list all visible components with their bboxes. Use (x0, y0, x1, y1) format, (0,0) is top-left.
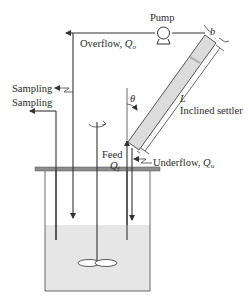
width-label: b (210, 26, 215, 37)
settler-label: Inclined settler (180, 105, 243, 116)
bioreactor-settler-diagram: Pump Overflow, Qo Sampling Sampling b L (0, 0, 249, 304)
impeller-blade-right (95, 260, 117, 267)
sampling-line-bottom (30, 111, 56, 240)
pump-label: Pump (150, 12, 175, 23)
theta-label: θ (130, 93, 135, 104)
sampling-bottom-label: Sampling (12, 97, 53, 108)
length-label: L (179, 93, 186, 104)
inclined-settler (128, 35, 216, 150)
overflow-line (66, 33, 205, 218)
feed-label: Feed (102, 149, 123, 160)
overflow-label: Overflow, Qo (80, 38, 136, 51)
sampling-port-top (55, 88, 73, 92)
pump-icon (157, 27, 170, 44)
underflow-label: Underflow, Qu (153, 157, 215, 170)
sampling-top-label: Sampling (12, 83, 53, 94)
underflow-sampling-port (134, 159, 152, 163)
